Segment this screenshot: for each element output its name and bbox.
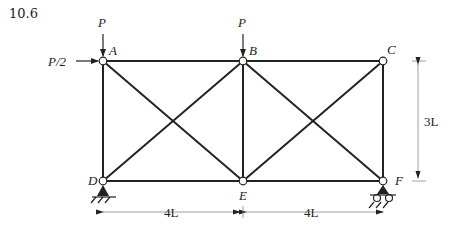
joint-D [99, 177, 107, 185]
node-label-A: A [108, 43, 117, 58]
node-label-C: C [387, 42, 396, 57]
load-label-A-vertical: P [97, 15, 106, 30]
node-label-E: E [238, 188, 247, 203]
load-label-B-vertical: P [237, 15, 246, 30]
joint-C [379, 57, 387, 65]
loads [76, 34, 243, 61]
joint-F [379, 177, 387, 185]
dimension-label-EF: 4L [304, 205, 319, 220]
roller-support-F [369, 185, 396, 208]
joint-B [239, 57, 247, 65]
joint-A [99, 57, 107, 65]
truss-members [103, 61, 383, 181]
node-label-B: B [249, 43, 257, 58]
joint-E [239, 177, 247, 185]
node-label-F: F [394, 173, 404, 188]
dimension-label-DE: 4L [164, 205, 179, 220]
load-label-A-horizontal: P/2 [47, 54, 67, 69]
dimension-label-height: 3L [424, 114, 439, 129]
node-label-D: D [87, 173, 98, 188]
truss-diagram: P P P/2 A B C D E F 4L [0, 0, 454, 227]
